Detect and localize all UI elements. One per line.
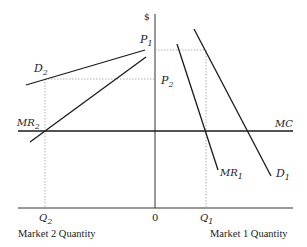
q2-label: Q2 [39, 212, 52, 226]
p1-label: P1 [139, 33, 153, 48]
d1-label: D1 [275, 167, 290, 182]
p2-label: P2 [160, 74, 174, 89]
mr1-label: MR1 [219, 167, 243, 181]
d2-label: D2 [33, 62, 48, 77]
mc-label: MC [274, 118, 293, 129]
d1-curve [194, 29, 271, 176]
price-discrimination-diagram: $ P1 P2 D2 MR2 MC MR1 D1 Q2 0 Q1 Market … [0, 0, 307, 247]
y-axis-label: $ [144, 12, 150, 22]
origin-label: 0 [152, 212, 158, 223]
mr2-label: MR2 [16, 117, 40, 131]
q1-label: Q1 [200, 212, 213, 226]
market-1-quantity-label: Market 1 Quantity [210, 228, 288, 239]
market-2-quantity-label: Market 2 Quantity [18, 228, 96, 239]
